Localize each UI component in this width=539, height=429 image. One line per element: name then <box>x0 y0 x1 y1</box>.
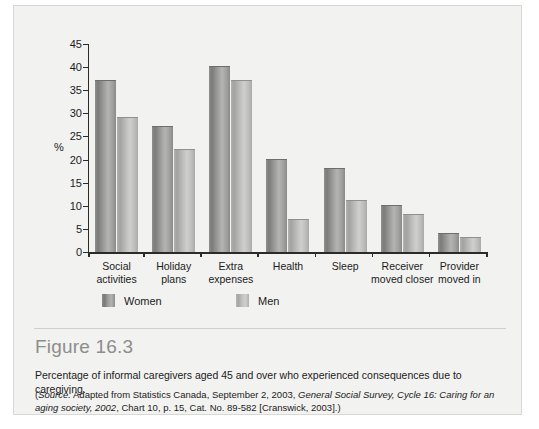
bar-men <box>117 117 138 252</box>
y-axis-tick-label: 35 <box>70 85 82 96</box>
y-axis-tick-label: 0 <box>76 247 82 258</box>
bar-men <box>460 237 481 252</box>
bar-women <box>95 80 116 252</box>
source-publication-title: General Social Survey, Cycle 16: Caring … <box>35 389 494 413</box>
bar-group <box>431 44 488 252</box>
bar-men <box>346 200 367 252</box>
y-axis-tick-label: 15 <box>70 178 82 189</box>
bar-women <box>266 159 287 252</box>
bar-men <box>174 149 195 252</box>
figure-card: 051015202530354045 % Social activitiesHo… <box>13 5 522 415</box>
bar-women <box>324 168 345 252</box>
legend-label: Men <box>258 295 279 307</box>
x-axis-tick <box>429 252 431 257</box>
bar-men <box>288 219 309 252</box>
figure-source: (Source: Adapted from Statistics Canada,… <box>35 388 505 414</box>
bar-group <box>202 44 259 252</box>
y-axis-tick-label: 5 <box>76 224 82 235</box>
bar-group <box>88 44 145 252</box>
plot-area: Social activitiesHoliday plansExtra expe… <box>88 44 488 252</box>
x-axis-tick <box>257 252 259 257</box>
x-axis-tick <box>315 252 317 257</box>
y-axis-tick-label: 20 <box>70 155 82 166</box>
bar-men <box>231 80 252 252</box>
x-axis-tick <box>486 252 488 257</box>
bar-women <box>438 233 459 252</box>
legend-swatch-men <box>236 294 249 307</box>
figure-title: Figure 16.3 <box>35 336 133 358</box>
source-label: Source: <box>38 389 71 400</box>
y-axis-tick-label: 45 <box>70 39 82 50</box>
legend-item-men: Men <box>236 294 279 307</box>
legend-item-women: Women <box>102 294 162 307</box>
x-axis-tick <box>143 252 145 257</box>
bar-women <box>381 205 402 252</box>
y-axis-tick-label: 30 <box>70 108 82 119</box>
x-axis-tick <box>88 252 90 257</box>
caption-divider <box>34 328 506 329</box>
y-axis-tick-label: 40 <box>70 62 82 73</box>
chart-legend: WomenMen <box>14 294 523 320</box>
bar-women <box>152 126 173 252</box>
y-axis-title: % <box>54 141 64 153</box>
x-axis-tick <box>372 252 374 257</box>
bar-group <box>317 44 374 252</box>
bar-group <box>374 44 431 252</box>
bar-group <box>259 44 316 252</box>
bar-men <box>403 214 424 252</box>
bar-group <box>145 44 202 252</box>
bar-chart: 051015202530354045 % Social activitiesHo… <box>14 6 523 296</box>
legend-label: Women <box>124 295 162 307</box>
y-axis-tick-label: 25 <box>70 131 82 142</box>
bar-women <box>209 66 230 252</box>
x-axis-tick <box>200 252 202 257</box>
legend-swatch-women <box>102 294 115 307</box>
x-axis-category-label: Provider moved in <box>423 260 496 285</box>
y-axis-tick-label: 10 <box>70 201 82 212</box>
